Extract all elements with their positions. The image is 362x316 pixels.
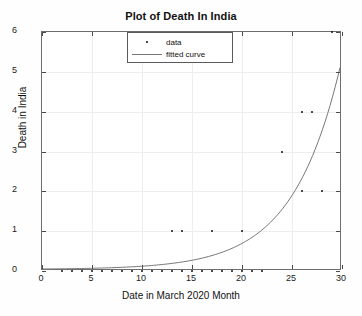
legend-label-fitted-curve: fitted curve xyxy=(166,50,205,59)
y-axis-label: Death in India xyxy=(17,48,28,188)
data-point xyxy=(301,111,303,113)
data-point xyxy=(191,270,193,272)
x-axis-tick xyxy=(292,265,293,269)
x-axis-tick xyxy=(192,265,193,269)
legend-label-data: data xyxy=(166,38,182,47)
data-point xyxy=(301,190,303,192)
y-axis-tick xyxy=(336,112,340,113)
legend-marker-dot-icon xyxy=(128,41,166,43)
x-axis-label: Date in March 2020 Month xyxy=(0,290,362,301)
y-axis-tick xyxy=(42,152,46,153)
data-point xyxy=(281,151,283,153)
data-point xyxy=(231,270,233,272)
y-axis-tick-label: 2 xyxy=(0,184,17,194)
y-axis-tick xyxy=(336,191,340,192)
x-axis-tick xyxy=(342,265,343,269)
legend-item-fitted-curve: fitted curve xyxy=(128,48,232,60)
y-axis-tick-label: 4 xyxy=(0,105,17,115)
x-axis-tick xyxy=(242,32,243,36)
data-point xyxy=(201,270,203,272)
data-point xyxy=(211,230,213,232)
x-axis-tick-label: 5 xyxy=(76,273,106,283)
y-axis-tick-label: 3 xyxy=(0,145,17,155)
data-point xyxy=(131,270,133,272)
x-axis-tick xyxy=(292,32,293,36)
x-axis-tick-label: 0 xyxy=(26,273,56,283)
data-point xyxy=(171,230,173,232)
y-axis-tick xyxy=(336,152,340,153)
data-point xyxy=(181,230,183,232)
y-axis-tick xyxy=(336,72,340,73)
x-axis-tick xyxy=(42,265,43,269)
data-point xyxy=(241,270,243,272)
y-axis-tick-label: 5 xyxy=(0,65,17,75)
y-axis-tick xyxy=(42,72,46,73)
figure-canvas: Plot of Death In India Death in India Da… xyxy=(0,0,362,316)
x-axis-tick xyxy=(142,265,143,269)
x-axis-tick xyxy=(342,32,343,36)
y-axis-tick-label: 1 xyxy=(0,224,17,234)
y-axis-tick-label: 6 xyxy=(0,25,17,35)
y-axis-tick xyxy=(336,32,340,33)
data-point xyxy=(141,270,143,272)
y-axis-tick xyxy=(42,112,46,113)
x-axis-tick xyxy=(42,32,43,36)
data-point xyxy=(101,270,103,272)
plot-area xyxy=(41,31,341,270)
data-point xyxy=(321,190,323,192)
legend-box: data fitted curve xyxy=(127,32,233,63)
x-axis-tick-label: 25 xyxy=(276,273,306,283)
data-point xyxy=(181,270,183,272)
data-point xyxy=(61,270,63,272)
x-axis-tick xyxy=(92,32,93,36)
y-axis-tick xyxy=(42,231,46,232)
y-axis-tick xyxy=(42,191,46,192)
data-point xyxy=(161,270,163,272)
data-point xyxy=(211,270,213,272)
data-point xyxy=(311,111,313,113)
data-point xyxy=(121,270,123,272)
x-axis-tick-label: 10 xyxy=(126,273,156,283)
x-axis-tick xyxy=(242,265,243,269)
data-point xyxy=(151,270,153,272)
data-point xyxy=(111,270,113,272)
x-axis-tick-label: 30 xyxy=(326,273,356,283)
legend-item-data: data xyxy=(128,36,232,48)
data-point xyxy=(331,31,333,33)
data-point xyxy=(91,270,93,272)
x-axis-tick-label: 20 xyxy=(226,273,256,283)
data-point xyxy=(171,270,173,272)
data-point xyxy=(71,270,73,272)
x-axis-tick-label: 15 xyxy=(176,273,206,283)
fitted-curve-path xyxy=(42,32,340,269)
data-point xyxy=(261,270,263,272)
y-axis-tick xyxy=(336,231,340,232)
data-point xyxy=(241,230,243,232)
x-axis-tick xyxy=(92,265,93,269)
legend-line-icon xyxy=(128,54,166,55)
data-point xyxy=(221,270,223,272)
y-axis-tick xyxy=(336,271,340,272)
chart-title: Plot of Death In India xyxy=(0,10,362,22)
y-axis-tick xyxy=(42,271,46,272)
data-point xyxy=(251,270,253,272)
data-point xyxy=(81,270,83,272)
y-axis-tick-label: 0 xyxy=(0,264,17,274)
